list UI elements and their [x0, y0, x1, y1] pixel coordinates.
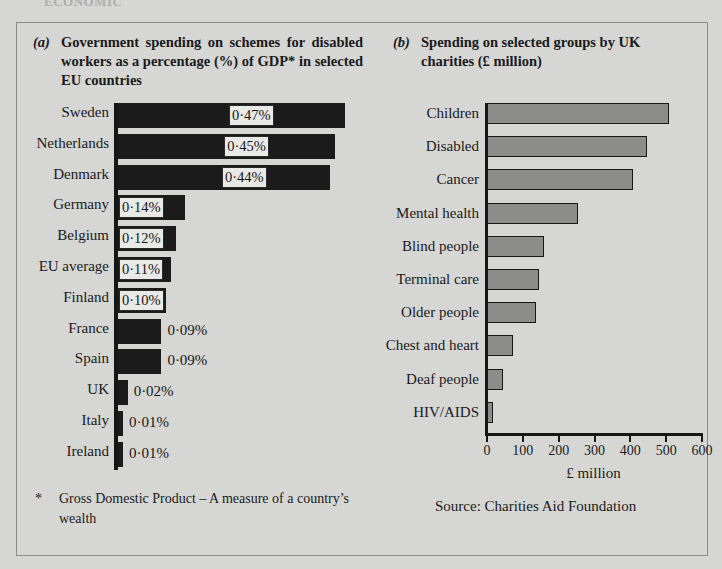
chart-b-x-tick-label: 100 — [503, 443, 543, 459]
chart-b-bar-row: Blind people — [383, 232, 709, 265]
chart-a-category-label: UK — [87, 381, 109, 398]
chart-b-bar — [487, 302, 536, 323]
panel-a-tag: (a) — [33, 34, 50, 50]
chart-a-value-label: 0·12% — [119, 228, 164, 249]
chart-b-category-label: Disabled — [426, 138, 479, 155]
chart-a-bar — [118, 442, 123, 467]
chart-a-value-label: 0·09% — [167, 351, 207, 370]
chart-a-bar-row: Finland0·10% — [17, 286, 383, 317]
chart-b-category-label: Cancer — [437, 171, 479, 188]
chart-a-bar — [118, 319, 161, 344]
chart-a-bar-row: Italy0·01% — [17, 409, 383, 440]
chart-b-x-tick — [594, 433, 596, 442]
chart-b-x-tick-label: 300 — [575, 443, 615, 459]
chart-a-category-label: Finland — [63, 289, 109, 306]
chart-b-x-tick-label: 0 — [467, 443, 507, 459]
chart-a-value-label: 0·09% — [167, 321, 207, 340]
chart-b-bar-row: Children — [383, 99, 709, 132]
chart-b-x-tick — [665, 433, 667, 442]
chart-b-bar-row: Older people — [383, 298, 709, 331]
chart-b-bar-row: Disabled — [383, 132, 709, 165]
chart-a-value-label: 0·44% — [222, 167, 267, 188]
panel-b-title: (b) Spending on selected groups by UK ch… — [393, 33, 693, 71]
panel-a-title: (a) Government spending on schemes for d… — [33, 33, 363, 90]
chart-b-x-tick-label: 500 — [646, 443, 686, 459]
chart-b-bar-row: Chest and heart — [383, 331, 709, 364]
chart-b-bar — [487, 236, 544, 257]
chart-b-category-label: Chest and heart — [386, 337, 479, 354]
panel-b: (b) Spending on selected groups by UK ch… — [383, 23, 709, 555]
chart-b-category-label: Blind people — [402, 238, 479, 255]
chart-a-category-label: Ireland — [67, 443, 109, 460]
chart-b-bar-row: Cancer — [383, 165, 709, 198]
chart-a-category-label: Denmark — [53, 166, 109, 183]
chart-a-bar — [118, 411, 123, 436]
chart-a-value-label: 0·47% — [229, 105, 274, 126]
chart-a-category-label: Germany — [53, 196, 109, 213]
panel-b-title-text: Spending on selected groups by UK charit… — [421, 33, 693, 71]
chart-a-value-label: 0·01% — [129, 413, 169, 432]
chart-a-value-label: 0·01% — [129, 444, 169, 463]
chart-a-category-label: Netherlands — [37, 135, 109, 152]
chart-a-category-label: France — [68, 320, 109, 337]
chart-b-bar — [487, 402, 493, 423]
footnote-marker: * — [35, 489, 42, 509]
panel-a-title-text: Government spending on schemes for disab… — [61, 33, 363, 90]
chart-a-value-label: 0·45% — [224, 136, 269, 157]
chart-a-bar-row: UK0·02% — [17, 378, 383, 409]
chart-b-bar-row: Deaf people — [383, 365, 709, 398]
footnote-text: Gross Domestic Product – A measure of a … — [59, 489, 355, 529]
chart-b-bar-row: Terminal care — [383, 265, 709, 298]
chart-b-bar — [487, 203, 578, 224]
panel-b-source: Source: Charities Aid Foundation — [435, 498, 636, 515]
chart-b-x-tick — [629, 433, 631, 442]
chart-a-bar-row: Netherlands0·45% — [17, 132, 383, 163]
chart-a-bar-row: EU average0·11% — [17, 255, 383, 286]
figure-frame: (a) Government spending on schemes for d… — [16, 22, 708, 556]
chart-a-bar-row: France0·09% — [17, 317, 383, 348]
chart-a-category-label: Italy — [82, 412, 110, 429]
chart-a: Sweden0·47%Netherlands0·45%Denmark0·44%G… — [17, 95, 383, 475]
chart-b-x-axis-label: £ million — [485, 465, 702, 482]
chart-b-bar — [487, 335, 513, 356]
chart-a-bar — [118, 380, 128, 405]
chart-b-bar — [487, 169, 633, 190]
chart-b-x-tick-label: 400 — [610, 443, 650, 459]
chart-b-bar — [487, 103, 669, 124]
figure-page: ECONOMIC (a) Government spending on sche… — [0, 0, 722, 569]
chart-a-value-label: 0·02% — [134, 382, 174, 401]
chart-b-category-label: Mental health — [396, 205, 479, 222]
chart-b-category-label: Terminal care — [396, 271, 479, 288]
chart-b: ChildrenDisabledCancerMental healthBlind… — [383, 95, 709, 475]
chart-a-bar-row: Sweden0·47% — [17, 101, 383, 132]
panel-a: (a) Government spending on schemes for d… — [17, 23, 383, 555]
chart-a-bar-row: Denmark0·44% — [17, 163, 383, 194]
chart-a-bar-row: Belgium0·12% — [17, 224, 383, 255]
chart-b-x-tick-label: 600 — [682, 443, 722, 459]
chart-b-x-tick — [701, 433, 703, 442]
chart-b-bar — [487, 269, 539, 290]
chart-b-x-tick — [486, 433, 488, 442]
cropped-header-text: ECONOMIC — [44, 0, 122, 10]
chart-a-category-label: Sweden — [62, 104, 110, 121]
chart-a-bar-row: Ireland0·01% — [17, 440, 383, 471]
chart-b-category-label: Deaf people — [406, 371, 479, 388]
chart-a-bar-row: Germany0·14% — [17, 193, 383, 224]
chart-b-x-tick — [522, 433, 524, 442]
chart-b-bar-row: HIV/AIDS — [383, 398, 709, 431]
chart-b-bar-row: Mental health — [383, 199, 709, 232]
chart-b-category-label: Children — [427, 105, 480, 122]
chart-a-value-label: 0·11% — [119, 259, 163, 280]
chart-b-bar — [487, 136, 647, 157]
chart-b-x-tick — [558, 433, 560, 442]
chart-b-bar — [487, 369, 503, 390]
chart-b-x-tick-label: 200 — [539, 443, 579, 459]
panel-a-footnote: * Gross Domestic Product – A measure of … — [35, 489, 355, 529]
chart-a-bar — [118, 349, 161, 374]
chart-b-category-label: Older people — [401, 304, 479, 321]
chart-a-bar-row: Spain0·09% — [17, 347, 383, 378]
chart-a-value-label: 0·14% — [119, 197, 164, 218]
chart-a-category-label: Belgium — [57, 227, 109, 244]
chart-a-value-label: 0·10% — [119, 290, 164, 311]
chart-a-category-label: Spain — [75, 350, 109, 367]
